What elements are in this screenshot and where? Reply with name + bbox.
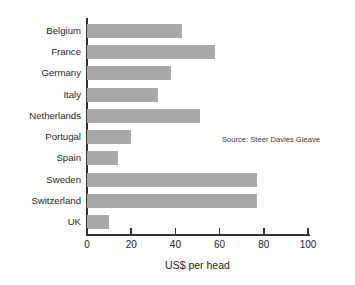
bar (87, 173, 257, 187)
bar-row: France (87, 41, 308, 62)
bar (87, 130, 131, 144)
x-axis-tick-label: 80 (258, 240, 269, 250)
bar-row: Switzerland (87, 190, 308, 211)
x-axis-tick-label: 100 (300, 240, 317, 250)
x-axis-tick-mark (175, 228, 177, 234)
plot-area: BelgiumFranceGermanyItalyNetherlandsPort… (87, 20, 308, 233)
x-axis-tick-label: 40 (170, 240, 181, 250)
category-label: UK (68, 218, 81, 228)
category-label: Sweden (46, 175, 81, 185)
category-label: Spain (56, 154, 81, 164)
bar (87, 24, 182, 38)
bar-row: Germany (87, 63, 308, 84)
category-label: Belgium (46, 26, 81, 36)
category-label: Netherlands (29, 111, 81, 121)
bar (87, 88, 158, 102)
bar (87, 194, 257, 208)
x-axis-tick-mark (219, 228, 221, 234)
category-label: Switzerland (31, 196, 81, 206)
bar-row: Netherlands (87, 105, 308, 126)
category-label: Italy (63, 90, 81, 100)
x-axis-title: US$ per head (87, 260, 308, 271)
x-axis-tick-label: 0 (84, 240, 90, 250)
x-axis-line (86, 234, 310, 236)
bar-row: Sweden (87, 169, 308, 190)
bar-row: Belgium (87, 20, 308, 41)
category-label: Portugal (45, 132, 81, 142)
x-axis-tick-label: 60 (214, 240, 225, 250)
x-axis-tick-mark (307, 228, 309, 234)
category-label: Germany (42, 68, 81, 78)
x-axis-tick-mark (263, 228, 265, 234)
bar (87, 66, 171, 80)
bar (87, 151, 118, 165)
x-axis-tick-mark (130, 228, 132, 234)
x-axis-tick-mark (86, 228, 88, 234)
bar-row: UK (87, 212, 308, 233)
category-label: France (51, 47, 81, 57)
source-annotation: Source: Steer Davies Gleave (222, 136, 320, 144)
bar (87, 45, 215, 59)
bar-chart: BelgiumFranceGermanyItalyNetherlandsPort… (0, 0, 355, 285)
bar-row: Spain (87, 148, 308, 169)
bar (87, 215, 109, 229)
bar-row: Italy (87, 84, 308, 105)
bar (87, 109, 200, 123)
x-axis-tick-label: 20 (126, 240, 137, 250)
